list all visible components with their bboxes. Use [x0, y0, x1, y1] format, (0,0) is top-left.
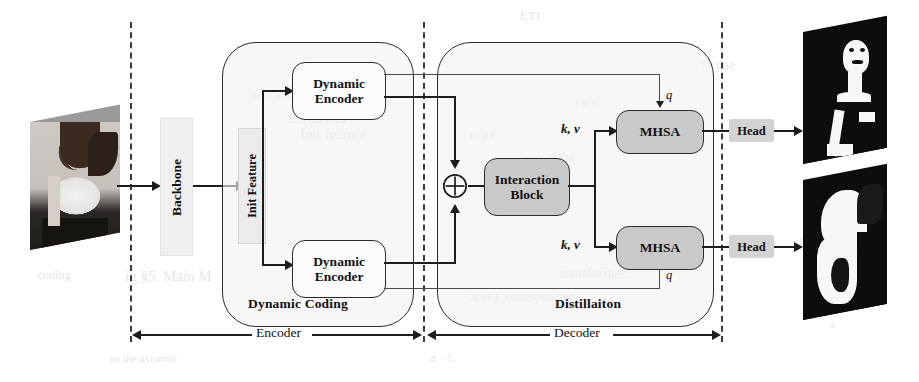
bleed-text: en the dynamic [110, 352, 177, 364]
edge-q-top-horizontal [384, 74, 660, 75]
edge-interaction-bus-vertical [594, 130, 596, 248]
decoder-span-line-left [435, 334, 550, 336]
edge-mhsa-bottom-to-head [702, 246, 730, 248]
edge-q-bottom-horizontal [384, 288, 660, 289]
edge-interaction-out [568, 185, 596, 187]
backbone-block[interactable]: Backbone [160, 118, 193, 256]
head-top[interactable]: Head [729, 119, 774, 142]
arrowhead-sum-top [450, 160, 460, 169]
arrowhead-head-top-to-output [794, 126, 803, 136]
interaction-block-line2: Block [510, 187, 543, 202]
dynamic-encoder-top-line1: Dynamic [313, 76, 365, 91]
q-label-bottom: q [666, 268, 672, 283]
dynamic-coding-label: Dynamic Coding [248, 296, 348, 312]
arrowhead-encoder-span-right [413, 330, 422, 340]
edge-q-top-vertical [659, 74, 660, 104]
edge-head-top-to-output [774, 130, 796, 132]
dynamic-encoder-top-line2: Encoder [315, 91, 364, 106]
interaction-block-line1: Interaction [495, 172, 560, 187]
dynamic-encoder-bottom-line2: Encoder [315, 269, 364, 284]
bleed-text: ETI [520, 8, 540, 24]
edge-init-branch-vertical [262, 90, 264, 266]
bleed-text: ig §5. Main M [125, 268, 212, 285]
arrowhead-decoder-span-right [712, 330, 721, 340]
bleed-text: coding [38, 268, 71, 283]
output-mask-top [803, 16, 887, 164]
head-top-label: Head [737, 124, 765, 138]
encoder-span-line-left [140, 334, 252, 336]
sum-operator [442, 173, 468, 199]
edge-encoder-top-to-sum-v [454, 96, 456, 164]
encoder-span-line-right [312, 334, 414, 336]
dynamic-encoder-bottom[interactable]: Dynamic Encoder [292, 240, 386, 298]
backbone-label: Backbone [169, 159, 184, 216]
kv-label-top: k, v [561, 121, 580, 137]
arrowhead-q-top [656, 101, 664, 108]
dynamic-encoder-bottom-line1: Dynamic [313, 254, 365, 269]
edge-head-bottom-to-output [774, 246, 796, 248]
dynamic-encoder-top[interactable]: Dynamic Encoder [292, 62, 386, 120]
head-bottom[interactable]: Head [729, 235, 774, 258]
output-mask-bottom [803, 164, 887, 320]
input-image [30, 105, 120, 250]
edge-mhsa-top-to-head [702, 130, 730, 132]
distillation-label: Distillaiton [555, 296, 621, 312]
arrowhead-head-bottom-to-output [794, 242, 803, 252]
mhsa-bottom-label: MHSA [640, 240, 681, 255]
bleed-text: a [830, 318, 835, 330]
encoder-span-label: Encoder [256, 325, 301, 341]
edge-encoder-top-to-sum-h [384, 96, 456, 98]
divider-line-3 [721, 22, 723, 342]
divider-line-2 [423, 22, 425, 342]
head-bottom-label: Head [737, 240, 765, 254]
mhsa-bottom[interactable]: MHSA [616, 226, 704, 270]
edge-encoder-bottom-to-sum-v [454, 208, 456, 264]
mhsa-top-label: MHSA [640, 124, 681, 139]
interaction-block[interactable]: Interaction Block [484, 158, 570, 216]
bleed-text: 4. · 5 [430, 352, 453, 364]
init-feature-label: Init Feature [245, 154, 259, 218]
edge-input-to-backbone [117, 185, 153, 187]
architecture-diagram: ETIhe is a binary of the binaryand tan m… [0, 0, 919, 382]
divider-line-1 [130, 22, 132, 342]
arrowhead-sum-bottom [450, 204, 460, 213]
decoder-span-line-right [613, 334, 713, 336]
mhsa-top[interactable]: MHSA [616, 110, 704, 154]
edge-sum-to-interaction [468, 185, 484, 187]
kv-label-bottom: k, v [561, 237, 580, 253]
edge-encoder-bottom-to-sum-h [384, 262, 456, 264]
q-label-top: q [666, 88, 672, 103]
decoder-span-label: Decoder [554, 325, 600, 341]
